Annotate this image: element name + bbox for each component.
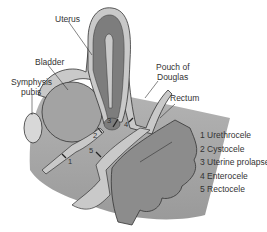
prolapse-diagram: 1 2 3 4 5 <box>0 0 267 232</box>
label-symphysis-2: pubis <box>21 87 41 97</box>
legend-item-rectocele: 5 Rectocele <box>200 183 267 197</box>
legend-item-uterine-prolapse: 3 Uterine prolapse <box>200 156 267 170</box>
legend-item-cystocele: 2 Cystocele <box>200 143 267 157</box>
symphysis-pubis <box>24 113 42 143</box>
label-bladder: Bladder <box>35 57 64 67</box>
label-rectum: Rectum <box>170 93 199 103</box>
marker-4: 4 <box>124 120 128 129</box>
marker-1: 1 <box>68 157 72 166</box>
label-symphysis-1: Symphysis <box>11 77 52 87</box>
marker-3: 3 <box>107 116 111 125</box>
label-pouch-2: Douglas <box>157 72 188 82</box>
legend-item-enterocele: 4 Enterocele <box>200 170 267 184</box>
leader-pouch <box>145 81 158 98</box>
marker-2: 2 <box>93 131 97 140</box>
label-uterus: Uterus <box>55 14 80 24</box>
legend: 1 Urethrocele 2 Cystocele 3 Uterine prol… <box>200 129 267 197</box>
legend-item-urethrocele: 1 Urethrocele <box>200 129 267 143</box>
label-pouch-1: Pouch of <box>156 62 190 72</box>
marker-5: 5 <box>89 146 93 155</box>
